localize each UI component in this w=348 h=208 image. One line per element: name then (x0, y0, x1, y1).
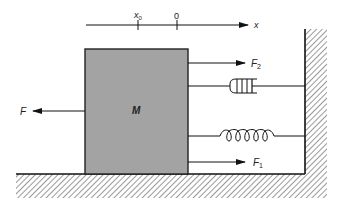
tick-label-zero: 0 (174, 11, 179, 21)
ground (16, 174, 327, 198)
spring (188, 130, 305, 142)
wall (305, 29, 327, 174)
spring-force-label: F1 (253, 157, 263, 169)
spring-force: F1 (188, 157, 263, 169)
position-axis: x0 0 x (86, 10, 259, 30)
applied-force: F (20, 106, 85, 117)
damper (188, 79, 305, 93)
ground-hatch (16, 174, 327, 198)
mass-label: M (132, 105, 141, 116)
damper-force-label: F2 (251, 58, 261, 70)
spring-coil (188, 130, 305, 142)
applied-force-label: F (20, 106, 27, 117)
mass-block: M (85, 49, 188, 174)
mass-spring-damper-diagram: x0 0 x M F F2 F1 (0, 0, 348, 208)
axis-label-x: x (253, 20, 259, 30)
damper-force: F2 (188, 58, 261, 70)
wall-hatch (305, 29, 327, 174)
tick-label-x0: x0 (133, 10, 143, 21)
